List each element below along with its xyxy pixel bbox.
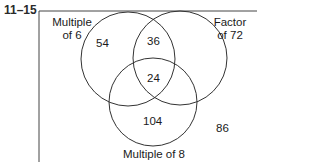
set-label-factor-of-72: Factor of 72 xyxy=(210,16,250,42)
set-label-multiple-of-8: Multiple of 8 xyxy=(112,148,196,161)
region-all-three: 24 xyxy=(147,72,160,85)
set-label-line: of 72 xyxy=(210,29,250,42)
region-only-multiple-of-6: 54 xyxy=(96,37,109,50)
set-label-line: of 6 xyxy=(52,29,92,42)
region-only-multiple-of-8: 104 xyxy=(143,115,162,128)
region-multiple-of-6-and-factor-of-72: 36 xyxy=(147,35,160,48)
set-label-line: Factor xyxy=(210,16,250,29)
set-label-line: Multiple xyxy=(52,16,92,29)
set-label-multiple-of-6: Multiple of 6 xyxy=(52,16,92,42)
region-outside: 86 xyxy=(216,122,229,135)
